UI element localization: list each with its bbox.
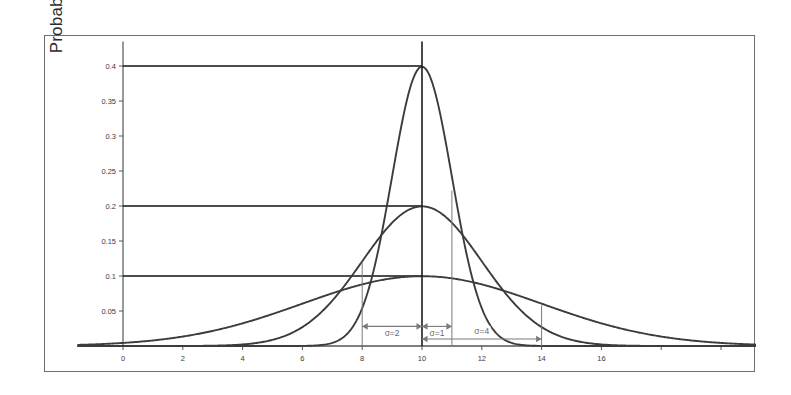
sigma-2-label: σ=2 bbox=[384, 328, 401, 338]
y-tick-label: 0.05 bbox=[101, 307, 116, 316]
y-tick-label: 0.25 bbox=[101, 167, 116, 176]
x-tick-label: 6 bbox=[300, 354, 304, 363]
y-tick-label: 0.2 bbox=[106, 202, 116, 211]
x-tick-label: 2 bbox=[181, 354, 185, 363]
figure-root: Probability Density 0.050.10.150.20.250.… bbox=[0, 0, 791, 395]
chart-frame: Probability Density 0.050.10.150.20.250.… bbox=[44, 35, 755, 372]
chart-svg bbox=[45, 36, 756, 373]
sigma-1-label: σ=1 bbox=[428, 328, 445, 338]
y-tick-label: 0.3 bbox=[106, 132, 116, 141]
x-tick-label: 8 bbox=[360, 354, 364, 363]
sigma-4-label: σ=4 bbox=[473, 326, 490, 336]
x-tick-label: 4 bbox=[241, 354, 245, 363]
y-tick-label: 0.4 bbox=[106, 62, 116, 71]
x-tick-label: 10 bbox=[418, 354, 426, 363]
x-tick-label: 12 bbox=[478, 354, 486, 363]
y-tick-label: 0.1 bbox=[106, 272, 116, 281]
x-tick-label: 14 bbox=[537, 354, 545, 363]
x-tick-label: 0 bbox=[121, 354, 125, 363]
y-tick-label: 0.15 bbox=[101, 237, 116, 246]
x-tick-label: 16 bbox=[597, 354, 605, 363]
y-tick-label: 0.35 bbox=[101, 97, 116, 106]
curve-sigma-4 bbox=[78, 276, 756, 345]
plot-area: 0.050.10.150.20.250.30.350.4024681012141… bbox=[45, 36, 756, 373]
